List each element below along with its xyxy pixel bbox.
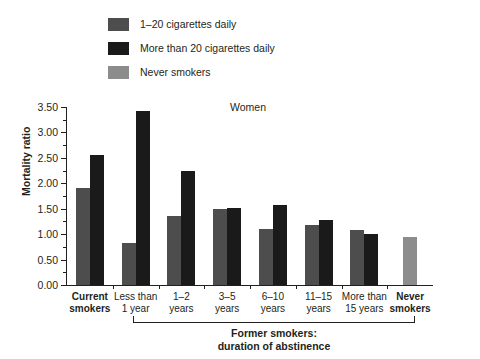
category-label-line2: 1 year: [122, 303, 150, 314]
bar: [364, 234, 378, 285]
bracket-label-line2: duration of abstinence: [218, 340, 331, 352]
bar-group: [167, 107, 195, 285]
y-tick-major: [61, 107, 67, 108]
legend-swatch-never-smokers: [108, 66, 129, 79]
category-label-line2: years: [306, 303, 330, 314]
bar: [213, 209, 227, 285]
category-label-line2: smokers: [390, 303, 431, 314]
bar: [403, 237, 417, 285]
chart-legend: 1–20 cigarettes daily More than 20 cigar…: [108, 12, 408, 84]
category-label-line1: 11–15: [305, 291, 332, 302]
bar: [319, 220, 333, 285]
x-tick: [204, 285, 205, 289]
legend-item: Never smokers: [108, 60, 408, 84]
plot-area: 0.000.501.001.502.002.503.003.50: [67, 107, 433, 285]
bracket-line: [133, 322, 415, 323]
bar: [167, 216, 181, 285]
y-tick-label: 2.50: [38, 153, 58, 164]
category-label: Neversmokers: [380, 291, 440, 314]
bracket-label: Former smokers: duration of abstinence: [133, 327, 415, 352]
y-tick-major: [61, 285, 67, 286]
y-tick-major: [61, 132, 67, 133]
y-tick-major: [61, 234, 67, 235]
y-tick-major: [61, 209, 67, 210]
category-label-line1: 3–5: [219, 291, 236, 302]
x-tick: [387, 285, 388, 289]
category-label-line2: 15 years: [345, 303, 383, 314]
x-tick: [342, 285, 343, 289]
bracket-end-left: [133, 316, 134, 323]
category-label-line1: 1–2: [173, 291, 190, 302]
y-tick-label: 3.50: [38, 102, 58, 113]
category-label-line1: 6–10: [262, 291, 284, 302]
x-tick: [113, 285, 114, 289]
x-tick: [296, 285, 297, 289]
y-tick-major: [61, 158, 67, 159]
bar: [259, 229, 273, 285]
bar: [181, 171, 195, 285]
bar: [273, 205, 287, 285]
y-tick-major: [61, 260, 67, 261]
former-smokers-bracket: [133, 316, 415, 323]
y-tick-minor: [63, 272, 67, 273]
bar: [136, 111, 150, 285]
x-tick: [159, 285, 160, 289]
y-tick-minor: [63, 196, 67, 197]
bar-group: [213, 107, 241, 285]
bar: [227, 208, 241, 285]
bar-group: [76, 107, 104, 285]
y-tick-label: 2.00: [38, 178, 58, 189]
y-tick-minor: [63, 120, 67, 121]
bar: [90, 155, 104, 285]
y-tick-label: 1.50: [38, 203, 58, 214]
y-tick-minor: [63, 145, 67, 146]
legend-item: 1–20 cigarettes daily: [108, 12, 408, 36]
y-tick-minor: [63, 221, 67, 222]
category-label-line1: Current: [72, 291, 108, 302]
y-axis-title: Mortality ratio: [20, 127, 32, 196]
legend-label: 1–20 cigarettes daily: [140, 19, 236, 30]
y-tick-major: [61, 183, 67, 184]
bar: [122, 243, 136, 285]
y-tick-label: 3.00: [38, 127, 58, 138]
category-label-line2: years: [215, 303, 239, 314]
y-tick-label: 1.00: [38, 229, 58, 240]
legend-label: More than 20 cigarettes daily: [140, 43, 275, 54]
bracket-end-right: [414, 316, 415, 323]
legend-swatch-heavy-smokers: [108, 42, 129, 55]
bar-group: [403, 107, 417, 285]
category-label-line2: years: [169, 303, 193, 314]
legend-swatch-light-smokers: [108, 18, 129, 31]
category-label-line2: smokers: [69, 303, 110, 314]
y-tick-minor: [63, 247, 67, 248]
legend-label: Never smokers: [140, 67, 211, 78]
y-tick-minor: [63, 171, 67, 172]
bar-group: [122, 107, 150, 285]
y-tick-label: 0.00: [38, 280, 58, 291]
category-label-line1: Never: [396, 291, 424, 302]
category-label-line2: years: [261, 303, 285, 314]
legend-item: More than 20 cigarettes daily: [108, 36, 408, 60]
bar-group: [259, 107, 287, 285]
bar-group: [350, 107, 378, 285]
y-tick-label: 0.50: [38, 254, 58, 265]
bar: [350, 230, 364, 285]
x-tick: [250, 285, 251, 289]
bracket-label-line1: Former smokers:: [231, 327, 317, 339]
bar-group: [305, 107, 333, 285]
bar: [305, 225, 319, 285]
bar: [76, 188, 90, 285]
